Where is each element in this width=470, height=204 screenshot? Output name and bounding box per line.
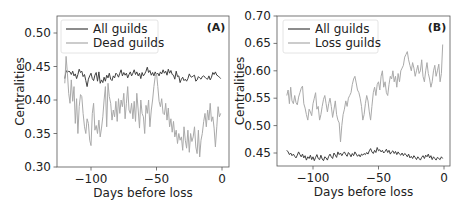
- series-line-all-guilds: [65, 67, 221, 86]
- y-tick-label: 0.50: [24, 26, 51, 40]
- y-axis-label: Centralities: [13, 57, 27, 126]
- x-tick-label: 0: [440, 171, 448, 185]
- legend: All guildsDead guilds: [61, 20, 164, 53]
- series-line-loss-guilds: [287, 45, 443, 143]
- chart-figure: 0.300.350.400.450.50−100−500Days before …: [0, 0, 470, 204]
- panel-label: (A): [207, 21, 226, 34]
- y-tick-label: 0.40: [24, 93, 51, 107]
- legend-label: All guilds: [93, 22, 147, 36]
- legend: All guildsLoss guilds: [283, 20, 381, 53]
- y-tick-label: 0.50: [244, 119, 271, 133]
- y-tick-label: 0.60: [244, 64, 271, 78]
- y-axis-label: Centralities: [233, 57, 247, 126]
- x-tick-label: −100: [297, 171, 330, 185]
- legend-label: Loss guilds: [315, 36, 381, 50]
- series-line-all-guilds: [287, 148, 443, 161]
- x-tick-label: −100: [75, 172, 108, 186]
- y-tick-label: 0.70: [244, 9, 271, 23]
- panel-b: 0.450.500.550.600.650.70−100−500Days bef…: [233, 9, 450, 199]
- series-line-dead-guilds: [65, 56, 221, 156]
- x-tick-label: 0: [218, 172, 226, 186]
- y-tick-label: 0.30: [24, 160, 51, 174]
- x-axis-label: Days before loss: [314, 185, 413, 199]
- x-tick-label: −50: [144, 172, 169, 186]
- panel-label: (B): [428, 21, 446, 34]
- x-tick-label: −50: [366, 171, 391, 185]
- y-tick-label: 0.55: [244, 91, 271, 105]
- y-tick-label: 0.45: [244, 146, 271, 160]
- legend-label: All guilds: [315, 22, 369, 36]
- y-tick-label: 0.45: [24, 60, 51, 74]
- panel-a: 0.300.350.400.450.50−100−500Days before …: [13, 16, 229, 200]
- y-tick-label: 0.35: [24, 127, 51, 141]
- legend-label: Dead guilds: [93, 36, 164, 50]
- y-tick-label: 0.65: [244, 36, 271, 50]
- x-axis-label: Days before loss: [93, 186, 192, 200]
